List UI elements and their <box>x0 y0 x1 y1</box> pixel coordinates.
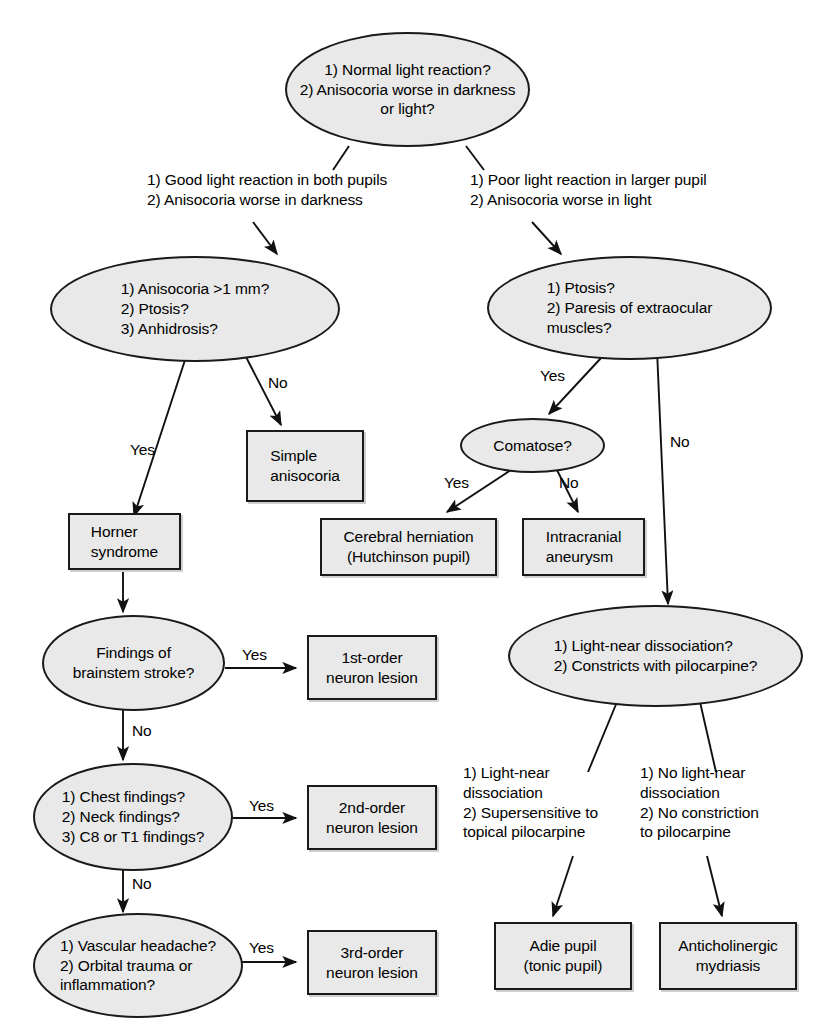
node-anticholinergic-mydriasis[interactable]: Anticholinergic mydriasis <box>659 922 797 990</box>
node-brainstem-stroke[interactable]: Findings of brainstem stroke? <box>42 615 225 711</box>
edge-label-stroke-no: No <box>132 721 152 741</box>
edge-label-root-right: 1) Poor light reaction in larger pupil 2… <box>470 170 707 210</box>
node-vascular-headache-label: 1) Vascular headache? 2) Orbital trauma … <box>60 936 216 995</box>
edge-root-left-stub <box>333 146 349 170</box>
node-second-order-lesion-label: 2nd-order neuron lesion <box>326 798 418 838</box>
node-root-question-label: 1) Normal light reaction? 2) Anisocoria … <box>300 60 516 119</box>
node-brainstem-stroke-label: Findings of brainstem stroke? <box>73 643 195 683</box>
edge-label-right-yes: Yes <box>540 366 565 386</box>
node-horner-syndrome-label: Horner syndrome <box>91 522 158 562</box>
edge-label-left-no: No <box>268 373 288 393</box>
node-left-question-label: 1) Anisocoria >1 mm? 2) Ptosis? 3) Anhid… <box>121 279 269 338</box>
node-adie-pupil-label: Adie pupil (tonic pupil) <box>524 936 603 976</box>
node-right-question[interactable]: 1) Ptosis? 2) Paresis of extraocular mus… <box>487 256 772 360</box>
edge-label-comatose-no: No <box>559 473 579 493</box>
edge-label-left-yes: Yes <box>130 440 155 460</box>
node-left-question[interactable]: 1) Anisocoria >1 mm? 2) Ptosis? 3) Anhid… <box>50 256 340 362</box>
edge-label-lnd-left: 1) Light-near dissociation 2) Supersensi… <box>463 763 598 842</box>
edge-label-chest-no: No <box>132 874 152 894</box>
edge-label-right-no: No <box>670 432 690 452</box>
node-first-order-lesion[interactable]: 1st-order neuron lesion <box>307 635 437 700</box>
node-third-order-lesion-label: 3rd-order neuron lesion <box>326 943 418 983</box>
node-second-order-lesion[interactable]: 2nd-order neuron lesion <box>307 785 437 850</box>
node-adie-pupil[interactable]: Adie pupil (tonic pupil) <box>494 922 632 990</box>
node-light-near-question-label: 1) Light-near dissociation? 2) Constrict… <box>554 636 758 676</box>
node-intracranial-aneurysm[interactable]: Intracranial aneurysm <box>522 518 645 576</box>
edge-lnd-right-stub <box>700 702 716 772</box>
node-light-near-question[interactable]: 1) Light-near dissociation? 2) Constrict… <box>508 605 803 707</box>
node-first-order-lesion-label: 1st-order neuron lesion <box>326 648 418 688</box>
node-simple-anisocoria[interactable]: Simple anisocoria <box>246 430 364 502</box>
edge-right-no-to-lnd <box>657 350 668 604</box>
node-comatose-label: Comatose? <box>493 436 571 456</box>
edge-label-stroke-yes: Yes <box>242 645 267 665</box>
edge-label-chest-yes: Yes <box>249 796 274 816</box>
node-simple-anisocoria-label: Simple anisocoria <box>270 446 340 486</box>
edge-label-lnd-right: 1) No light-near dissociation 2) No cons… <box>640 763 759 842</box>
edge-root-right-stub <box>466 146 484 170</box>
node-vascular-headache[interactable]: 1) Vascular headache? 2) Orbital trauma … <box>33 913 243 1018</box>
edge-root-to-right-question <box>532 222 561 254</box>
node-chest-neck-findings[interactable]: 1) Chest findings? 2) Neck findings? 3) … <box>33 763 233 871</box>
edge-lnd-left-to-adie <box>553 856 573 916</box>
edge-lnd-right-to-anticholinergic <box>707 856 722 916</box>
edge-left-yes-to-horner <box>134 357 186 516</box>
node-comatose[interactable]: Comatose? <box>460 418 605 473</box>
edge-label-root-left: 1) Good light reaction in both pupils 2)… <box>147 170 387 210</box>
anisocoria-flowchart: 1) Normal light reaction? 2) Anisocoria … <box>0 0 818 1027</box>
node-intracranial-aneurysm-label: Intracranial aneurysm <box>546 527 621 567</box>
node-horner-syndrome[interactable]: Horner syndrome <box>68 513 181 570</box>
node-third-order-lesion[interactable]: 3rd-order neuron lesion <box>307 930 437 995</box>
node-right-question-label: 1) Ptosis? 2) Paresis of extraocular mus… <box>547 278 713 337</box>
edge-lnd-left-stub <box>588 702 617 772</box>
edge-label-comatose-yes: Yes <box>444 473 469 493</box>
edge-root-to-left-question <box>253 222 277 254</box>
node-chest-neck-findings-label: 1) Chest findings? 2) Neck findings? 3) … <box>62 787 204 846</box>
node-cerebral-herniation[interactable]: Cerebral herniation (Hutchinson pupil) <box>320 518 497 576</box>
node-anticholinergic-mydriasis-label: Anticholinergic mydriasis <box>678 936 777 976</box>
edge-label-vascular-yes: Yes <box>249 938 274 958</box>
node-cerebral-herniation-label: Cerebral herniation (Hutchinson pupil) <box>344 527 474 567</box>
node-root-question[interactable]: 1) Normal light reaction? 2) Anisocoria … <box>285 32 530 147</box>
